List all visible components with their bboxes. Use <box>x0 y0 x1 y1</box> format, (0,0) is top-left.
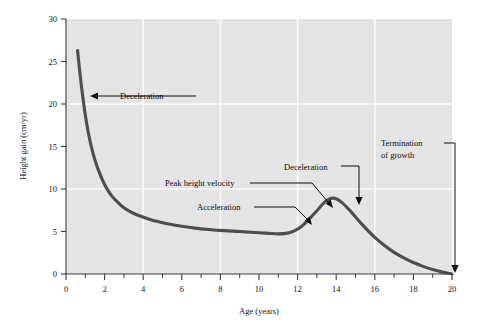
x-tick-label: 12 <box>293 284 302 294</box>
y-tick-label: 5 <box>53 227 57 237</box>
x-tick-label: 18 <box>409 284 418 294</box>
x-tick-label: 20 <box>448 284 457 294</box>
annotation-label: Deceleration <box>120 91 164 101</box>
y-tick-label: 30 <box>49 14 58 24</box>
annotation-label: Deceleration <box>284 162 328 172</box>
annotation-label: Peak height velocity <box>165 178 235 188</box>
chart-canvas: 051015202530 02468101214161820 Decelerat… <box>0 0 480 327</box>
x-tick-label: 2 <box>102 284 106 294</box>
annotation-label-line2: of growth <box>381 150 415 160</box>
y-axis-title: Height gain (cm/yr) <box>18 112 28 180</box>
x-tick-label: 4 <box>141 284 146 294</box>
x-tick-label: 6 <box>180 284 184 294</box>
y-tick-label: 20 <box>49 99 58 109</box>
x-tick-label: 16 <box>371 284 380 294</box>
x-tick-label: 8 <box>218 284 222 294</box>
x-tick-label: 14 <box>332 284 341 294</box>
growth-velocity-figure: 051015202530 02468101214161820 Decelerat… <box>0 0 480 327</box>
x-tick-label: 10 <box>255 284 264 294</box>
x-tick-label: 0 <box>64 284 68 294</box>
y-tick-label: 0 <box>53 269 57 279</box>
annotation-label-line1: Termination <box>381 138 423 148</box>
y-tick-label: 25 <box>49 57 58 67</box>
annotation-label: Acceleration <box>197 202 241 212</box>
y-tick-label: 10 <box>49 184 58 194</box>
y-tick-label: 15 <box>49 142 58 152</box>
x-axis-title: Age (years) <box>239 306 279 316</box>
